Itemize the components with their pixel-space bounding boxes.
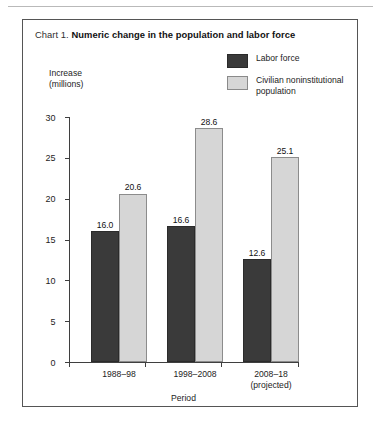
bar-value-label: 28.6 [201, 117, 218, 127]
y-axis-tick: 10 [65, 280, 70, 281]
plot-area: 302520151050 16.020.616.628.612.625.1 19… [69, 117, 298, 362]
chart-page: Chart 1. Numeric change in the populatio… [0, 0, 381, 426]
x-axis-category-label-line: 1998–2008 [173, 369, 216, 380]
y-axis-caption-line1: Increase [49, 68, 83, 79]
y-axis-tick: 15 [65, 240, 70, 241]
bar-labor-force: 12.6 [243, 259, 271, 362]
y-axis-caption: Increase (millions) [49, 68, 83, 90]
y-axis-tick-label: 15 [45, 235, 55, 245]
y-axis-tick-label: 20 [45, 194, 55, 204]
x-axis-title: Period [171, 393, 196, 403]
x-axis-tick [221, 362, 222, 367]
y-axis-tick-label: 10 [45, 276, 55, 286]
y-axis-tick: 25 [65, 158, 70, 159]
y-axis-line [69, 117, 70, 362]
bar-labor-force: 16.6 [167, 226, 195, 362]
x-axis-category-label-line: 1988–98 [102, 369, 135, 380]
bar-value-label: 12.6 [249, 248, 266, 258]
legend-label-labor-force: Labor force [256, 53, 299, 64]
x-axis-category-label: 1988–98 [102, 369, 135, 380]
x-axis-category-label-line: 2008–18 [250, 369, 291, 380]
chart-title: Chart 1. Numeric change in the populatio… [35, 29, 295, 40]
y-axis-tick: 30 [65, 117, 70, 118]
x-axis-tick [69, 362, 70, 367]
legend-item-civilian-population: Civilian noninstitutional population [227, 75, 359, 96]
chart-title-text: Numeric change in the population and lab… [71, 29, 295, 40]
y-axis-caption-line2: (millions) [49, 79, 83, 90]
legend-swatch-civilian-population-icon [227, 76, 248, 90]
y-axis-tick-label: 5 [50, 317, 55, 327]
bar-civilian-population: 28.6 [195, 128, 223, 362]
chart-container: Chart 1. Numeric change in the populatio… [22, 19, 358, 407]
bar-value-label: 16.6 [173, 215, 190, 225]
bar-civilian-population: 25.1 [271, 157, 299, 362]
bar-labor-force: 16.0 [91, 231, 119, 362]
y-axis-tick: 20 [65, 199, 70, 200]
x-axis-tick [298, 362, 299, 367]
legend-swatch-labor-force-icon [227, 54, 248, 68]
x-axis-category-label: 1998–2008 [173, 369, 216, 380]
chart-legend: Labor force Civilian noninstitutional po… [227, 53, 359, 103]
x-axis-category-label-line: (projected) [250, 380, 291, 391]
y-axis-tick-label: 0 [50, 358, 55, 368]
bar-civilian-population: 20.6 [119, 194, 147, 362]
legend-item-labor-force: Labor force [227, 53, 359, 68]
y-axis-tick-label: 30 [45, 113, 55, 123]
x-axis-line [69, 362, 298, 363]
bar-value-label: 25.1 [277, 146, 294, 156]
bar-value-label: 20.6 [125, 182, 142, 192]
chart-number-label: Chart 1. [35, 29, 69, 40]
legend-label-civilian-population: Civilian noninstitutional population [256, 75, 359, 96]
y-axis-tick: 5 [65, 321, 70, 322]
bar-value-label: 16.0 [97, 220, 114, 230]
y-axis-tick-label: 25 [45, 153, 55, 163]
x-axis-category-label: 2008–18(projected) [250, 369, 291, 390]
x-axis-tick [145, 362, 146, 367]
